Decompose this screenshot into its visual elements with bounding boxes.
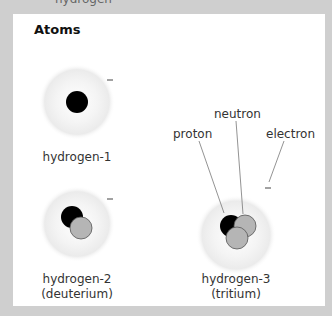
hydrogen-3-atom [196, 188, 276, 275]
atom-name: hydrogen-3 [176, 272, 296, 287]
electron-label: electron [266, 127, 315, 141]
proton-label: proton [173, 127, 212, 141]
atom-subtitle: (tritium) [176, 287, 296, 302]
atom-name: hydrogen-2 [17, 272, 137, 287]
atom-subtitle: (deuterium) [17, 287, 137, 302]
neutron-icon [226, 227, 248, 249]
neutron-label: neutron [214, 107, 261, 121]
electron-leader-line [269, 141, 284, 182]
proton-icon [66, 91, 88, 113]
atom-name: hydrogen-1 [17, 150, 137, 165]
hydrogen-2-atom [39, 186, 115, 262]
atom-label-hydrogen-1: hydrogen-1 [17, 150, 137, 165]
proton-leader-line [199, 141, 224, 213]
neutron-icon [70, 217, 92, 239]
atoms-figure-panel: Atoms [13, 14, 325, 306]
cut-off-header-text: hydrogen [55, 0, 112, 6]
atom-label-hydrogen-3: hydrogen-3 (tritium) [176, 272, 296, 302]
hydrogen-1-atom [39, 64, 115, 140]
atom-label-hydrogen-2: hydrogen-2 (deuterium) [17, 272, 137, 302]
